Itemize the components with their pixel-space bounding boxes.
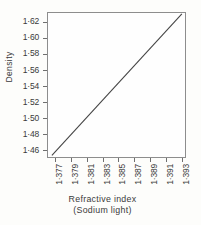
- y-tick-label: 1·54: [23, 82, 39, 91]
- x-axis-title-sub: (Sodium light): [30, 205, 175, 216]
- x-tick-mark: [103, 158, 104, 162]
- x-tick-label: 1·385: [118, 164, 127, 185]
- data-line-series: [52, 14, 182, 156]
- x-axis-ticks: 1·3771·3791·3811·3831·3851·3871·3891·391…: [47, 158, 186, 194]
- x-tick-mark: [87, 158, 88, 162]
- chart-figure: Density 1·621·601·581·561·541·521·501·48…: [0, 0, 201, 225]
- x-tick-label: 1·387: [134, 164, 143, 185]
- x-tick-mark: [182, 158, 183, 162]
- x-axis-title: Refractive index (Sodium light): [30, 194, 175, 216]
- y-tick-label: 1·62: [23, 17, 39, 26]
- x-tick-label: 1·389: [150, 164, 159, 185]
- x-tick-label: 1·393: [182, 164, 191, 185]
- x-tick-label: 1·391: [166, 164, 175, 185]
- plot-area: [48, 13, 185, 157]
- x-tick-mark: [150, 158, 151, 162]
- y-tick-label: 1·56: [23, 66, 39, 75]
- x-tick-label: 1·381: [87, 164, 96, 185]
- y-tick-label: 1·58: [23, 49, 39, 58]
- x-tick-label: 1·383: [103, 164, 112, 185]
- x-tick-label: 1·379: [71, 164, 80, 185]
- y-tick-label: 1·46: [23, 146, 39, 155]
- x-tick-mark: [118, 158, 119, 162]
- plot-frame: [47, 12, 186, 158]
- y-tick-label: 1·60: [23, 33, 39, 42]
- x-tick-label: 1·377: [55, 164, 64, 185]
- x-tick-mark: [166, 158, 167, 162]
- x-tick-mark: [55, 158, 56, 162]
- data-line-svg: [48, 13, 185, 157]
- y-axis-ticks: 1·621·601·581·561·541·521·501·481·46: [0, 12, 43, 158]
- x-tick-mark: [71, 158, 72, 162]
- y-tick-label: 1·52: [23, 98, 39, 107]
- y-tick-label: 1·48: [23, 130, 39, 139]
- y-tick-label: 1·50: [23, 114, 39, 123]
- x-tick-mark: [134, 158, 135, 162]
- x-axis-title-main: Refractive index: [30, 194, 175, 205]
